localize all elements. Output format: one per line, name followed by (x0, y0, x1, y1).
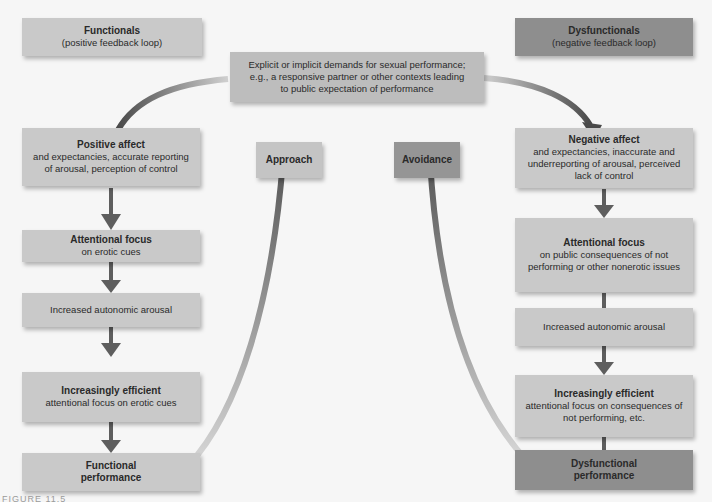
functionals-subtitle: (positive feedback loop) (62, 37, 162, 49)
demands-box: Explicit or implicit demands for sexual … (230, 52, 484, 102)
left-step-positive-affect: Positive affect and expectancies, accura… (22, 128, 200, 186)
avoidance-label: Avoidance (394, 142, 460, 178)
right-step-negative-affect: Negative affect and expectancies, inaccu… (515, 128, 693, 188)
dysfunctionals-title: Dysfunctionals (568, 25, 640, 37)
left-step-increasingly-efficient: Increasingly efficient attentional focus… (22, 372, 200, 422)
dysfunctionals-subtitle: (negative feedback loop) (552, 37, 656, 49)
approach-arrow (188, 146, 292, 466)
diagram-canvas: Functionals (positive feedback loop) Dys… (0, 0, 712, 502)
demands-line-3: to public expectation of performance (280, 83, 433, 95)
demands-line-2: e.g., a responsive partner or other cont… (250, 71, 464, 83)
left-step-functional-performance: Functional performance (22, 453, 200, 491)
avoidance-arrow (421, 146, 528, 462)
right-step-autonomic-arousal: Increased autonomic arousal (515, 308, 693, 346)
left-step-autonomic-arousal: Increased autonomic arousal (22, 293, 200, 327)
figure-caption: FIGURE 11.5 (2, 494, 66, 502)
left-step-attentional-focus: Attentional focus on erotic cues (22, 230, 200, 262)
right-step-dysfunctional-performance: Dysfunctional performance (515, 450, 693, 490)
functionals-header: Functionals (positive feedback loop) (22, 18, 202, 56)
right-step-increasingly-efficient: Increasingly efficient attentional focus… (515, 375, 693, 437)
approach-label: Approach (256, 142, 322, 178)
demands-line-1: Explicit or implicit demands for sexual … (248, 59, 465, 71)
right-step-attentional-focus: Attentional focus on public consequences… (515, 218, 693, 292)
dysfunctionals-header: Dysfunctionals (negative feedback loop) (515, 18, 693, 56)
functionals-title: Functionals (84, 25, 140, 37)
